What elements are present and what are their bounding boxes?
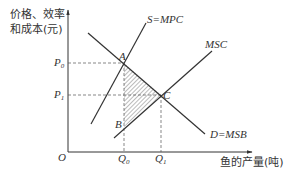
y-axis-label-line1: 价格、效率 [10,7,65,21]
demand-curve [88,33,205,134]
x-axis-label: 鱼的产量(吨) [220,155,284,169]
point-c-label: C [163,89,171,101]
origin-label: O [58,151,66,163]
p0-label: P0 [53,56,65,70]
point-a-label: A [118,50,126,62]
q1-label: Q1 [155,152,166,166]
point-b-label: B [115,118,122,130]
externality-diagram: 价格、效率 和成本(元) 鱼的产量(吨) O P0 P1 Q0 Q1 A B C… [0,0,285,173]
q0-label: Q0 [118,152,130,166]
supply-curve-label: S=MPC [147,13,184,25]
y-axis-label-line2: 和成本(元) [10,22,63,36]
demand-curve-label: D=MSB [209,128,247,140]
p1-label: P1 [53,88,64,102]
msc-curve-label: MSC [204,38,228,50]
